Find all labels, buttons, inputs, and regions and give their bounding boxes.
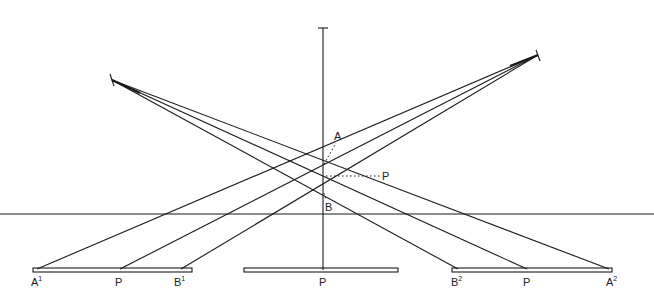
ray-left-to-B2 [112,80,458,269]
label-P-left: P [115,277,122,288]
center-screen [244,268,398,272]
label-B1: B1 [174,277,185,288]
label-B2: B2 [451,277,462,288]
label-P-right: P [523,277,530,288]
ray-right-to-A1 [37,55,538,269]
label-P-point: P [382,171,389,182]
label-A: A [334,131,341,142]
ray-right-to-P-left [120,55,538,269]
label-B: B [325,202,332,213]
label-P-center: P [319,277,326,288]
ray-right-to-B1 [181,55,538,269]
stereo-projection-diagram [0,0,654,307]
ray-left-to-A2 [112,80,609,269]
right-screen [452,268,612,272]
label-A2: A2 [606,277,617,288]
label-A1: A1 [31,277,42,288]
left-screen [33,268,192,272]
